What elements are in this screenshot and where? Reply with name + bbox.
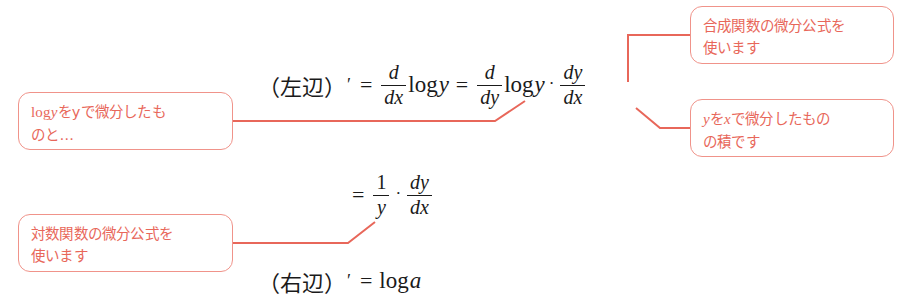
callout-y-by-x-variable-x: x <box>724 111 731 127</box>
equation-2-fraction-dy-dx-denominator: dx <box>407 196 432 219</box>
equation-2-fraction-dy-dx: dy dx <box>405 172 434 219</box>
equation-1-log-1: log <box>408 72 438 98</box>
callout-y-by-x-variable-y: y <box>703 111 710 127</box>
equation-3-variable-a: a <box>410 268 422 294</box>
equation-line-2: = 1 y · dy dx <box>345 172 434 219</box>
equation-1-lhs-label: （左辺） <box>258 69 346 101</box>
callout-log-y-derivative-log: log <box>31 104 51 120</box>
callout-log-y-derivative-line-1: logyをyで微分したも <box>31 101 222 124</box>
callout-y-by-x: yをxで微分したもの の積です <box>690 99 894 157</box>
equation-1-fraction-d-dx-numerator: d <box>386 62 402 85</box>
callout-composite-rule-line-1: 合成関数の微分公式を <box>703 15 883 37</box>
callout-y-by-x-line-1-text: で微分したもの <box>731 111 830 127</box>
callout-log-y-derivative-variable-y: y <box>51 104 58 120</box>
connector-log-rule <box>233 222 375 243</box>
connector-composite-rule <box>628 35 690 82</box>
connector-y-by-x <box>636 108 690 128</box>
callout-y-by-x-line-1: yをxで微分したもの <box>703 108 883 131</box>
equation-1-fraction-d-dx-denominator: dx <box>381 86 406 109</box>
equation-1-fraction-d-dx: d dx <box>379 62 408 109</box>
equation-2-equals: = <box>345 182 371 208</box>
figure-canvas: （左辺） ′ = d dx log y = d dy log y · dy dx… <box>0 0 907 304</box>
equation-1-fraction-dy-dx-numerator: dy <box>560 62 585 85</box>
callout-y-by-x-line-2: の積です <box>703 131 883 153</box>
equation-2-fraction-1-over-y-numerator: 1 <box>373 172 389 195</box>
equation-1-fraction-d-dy: d dy <box>475 62 504 109</box>
callout-composite-rule: 合成関数の微分公式を 使います <box>690 6 894 64</box>
equation-line-3: （右辺） ′ = log a <box>258 265 421 297</box>
equation-1-variable-y-2: y <box>535 72 545 98</box>
callout-log-y-derivative: logyをyで微分したも のと… <box>18 92 233 150</box>
equation-1-multiplication-dot: · <box>545 74 559 94</box>
equation-1-equals-2: = <box>449 72 475 98</box>
equation-2-fraction-1-over-y: 1 y <box>371 172 391 219</box>
equation-1-prime: ′ <box>346 75 353 96</box>
equation-3-prime: ′ <box>346 271 353 292</box>
equation-1-variable-y-1: y <box>439 72 449 98</box>
equation-1-fraction-dy-dx-denominator: dx <box>560 86 585 109</box>
equation-3-lhs-label: （右辺） <box>258 265 346 297</box>
callout-log-rule-line-2: 使います <box>31 245 222 267</box>
equation-line-1: （左辺） ′ = d dx log y = d dy log y · dy dx <box>258 62 587 109</box>
equation-3-log: log <box>379 268 409 294</box>
equation-2-multiplication-dot: · <box>391 184 405 204</box>
equation-3-equals: = <box>353 268 379 294</box>
callout-composite-rule-line-2: 使います <box>703 37 883 59</box>
equation-1-fraction-dy-dx: dy dx <box>558 62 587 109</box>
callout-y-by-x-particle: を <box>710 111 724 127</box>
equation-2-fraction-1-over-y-denominator: y <box>374 196 389 219</box>
equation-1-fraction-d-dy-numerator: d <box>482 62 498 85</box>
equation-2-fraction-dy-dx-numerator: dy <box>407 172 432 195</box>
callout-log-y-derivative-line-1-text: をyで微分したも <box>58 104 166 120</box>
equation-1-equals-1: = <box>353 72 379 98</box>
equation-1-log-2: log <box>504 72 534 98</box>
equation-1-fraction-d-dy-denominator: dy <box>477 86 502 109</box>
callout-log-rule-line-1: 対数関数の微分公式を <box>31 223 222 245</box>
callout-log-y-derivative-line-2: のと… <box>31 124 222 146</box>
callout-log-rule: 対数関数の微分公式を 使います <box>18 214 233 272</box>
